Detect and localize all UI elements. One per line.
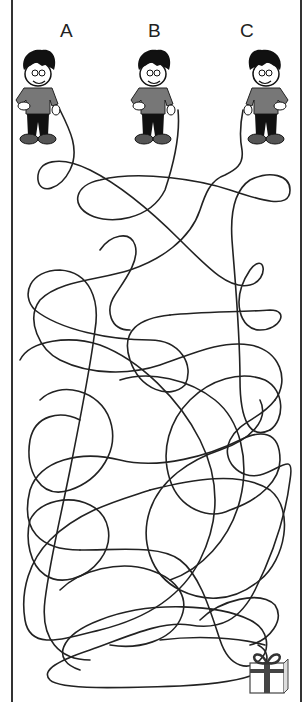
boy-c bbox=[244, 50, 288, 144]
maze-canvas bbox=[0, 0, 306, 702]
gift-box-icon bbox=[250, 654, 288, 693]
boy-a bbox=[16, 50, 60, 144]
tangled-lines bbox=[20, 110, 291, 688]
boy-b bbox=[131, 50, 175, 144]
